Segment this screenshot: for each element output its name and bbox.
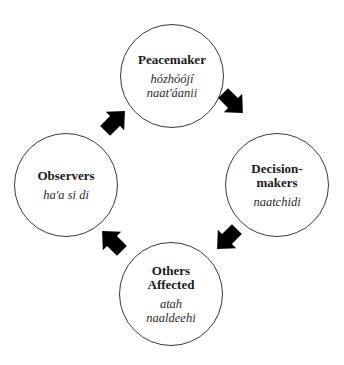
native-line-2: naaldeehi (146, 311, 195, 325)
node-title: Observers (37, 169, 94, 183)
node-native-term: hózhóójí naat'áanii (147, 72, 198, 100)
native-line-1: hózhóójí (150, 72, 193, 86)
node-title: Others Affected (148, 264, 195, 292)
arrow-others-affected-to-observers-icon (95, 224, 129, 258)
node-observers: Observers ha'a si di (14, 133, 118, 237)
native-line-1: atah (160, 297, 182, 311)
native-line-2: naat'áanii (147, 86, 198, 100)
title-line-1: Others (152, 263, 190, 278)
title-line-2: Affected (148, 277, 195, 292)
node-peacemaker: Peacemaker hózhóójí naat'áanii (120, 24, 224, 128)
peacemaking-cycle-diagram: Peacemaker hózhóójí naat'áanii Decision-… (0, 0, 344, 365)
title-line-2: makers (256, 175, 297, 190)
node-others-affected: Others Affected atah naaldeehi (119, 242, 223, 346)
arrow-peacemaker-to-decision-makers-icon (216, 86, 250, 120)
node-native-term: ha'a si di (43, 188, 89, 202)
node-native-term: atah naaldeehi (146, 297, 195, 325)
arrow-observers-to-peacemaker-icon (98, 104, 132, 138)
node-title: Decision- makers (251, 162, 302, 190)
node-native-term: naatchidi (253, 195, 300, 209)
title-line-1: Decision- (251, 161, 302, 176)
arrow-decision-makers-to-others-affected-icon (210, 222, 244, 256)
node-title: Peacemaker (138, 53, 206, 67)
